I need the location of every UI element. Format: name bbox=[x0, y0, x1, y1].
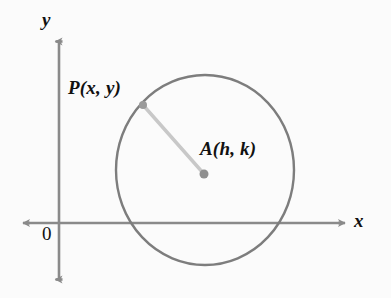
point-a-label: A(h, k) bbox=[200, 139, 256, 158]
point-p-label: P(x, y) bbox=[68, 78, 121, 97]
origin-label: 0 bbox=[42, 224, 52, 243]
point-p-dot bbox=[139, 101, 147, 109]
y-axis-label: y bbox=[42, 10, 51, 29]
radius-segment bbox=[143, 105, 204, 174]
figure-canvas: y x 0 P(x, y) A(h, k) bbox=[0, 0, 391, 298]
circle-diagram-svg bbox=[0, 0, 391, 298]
point-a-dot bbox=[200, 170, 209, 179]
x-axis-label: x bbox=[354, 211, 364, 230]
